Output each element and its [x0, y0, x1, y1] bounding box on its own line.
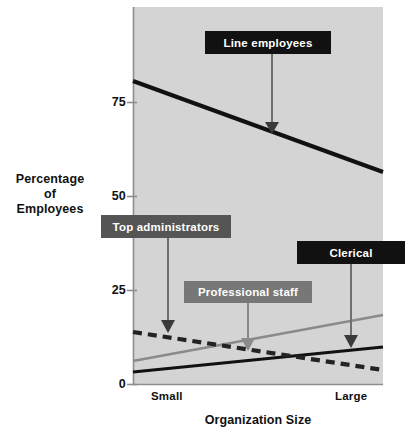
y-axis-title-line-1: Percentage — [4, 172, 96, 187]
y-axis-title: Percentage of Employees — [4, 172, 96, 217]
y-tick-label-25: 25 — [96, 283, 126, 297]
y-tick-label-75: 75 — [96, 95, 126, 109]
callout-clerical: Clerical — [297, 241, 405, 264]
y-tick-label-0: 0 — [96, 377, 126, 391]
callout-top-administrators: Top administrators — [101, 215, 231, 238]
annotation-arrow-professional-staff — [241, 303, 255, 351]
x-tick-label-large: Large — [335, 390, 367, 402]
x-tick-label-small: Small — [151, 390, 183, 402]
annotation-arrow-clerical — [344, 264, 358, 348]
y-axis-title-line-3: Employees — [4, 202, 96, 217]
y-axis-title-line-2: of — [4, 187, 96, 202]
y-tick-label-50: 50 — [96, 189, 126, 203]
callout-professional-staff: Professional staff — [184, 281, 312, 303]
chart-screenshot: 75 50 25 0 Percentage of Employees Small… — [0, 0, 408, 433]
series-line-line-employees — [133, 81, 383, 172]
annotation-arrow-top-administrators — [161, 238, 175, 333]
callout-line-employees: Line employees — [205, 31, 331, 54]
x-axis-title: Organization Size — [133, 413, 383, 427]
annotation-arrow-line-employees — [265, 54, 279, 134]
